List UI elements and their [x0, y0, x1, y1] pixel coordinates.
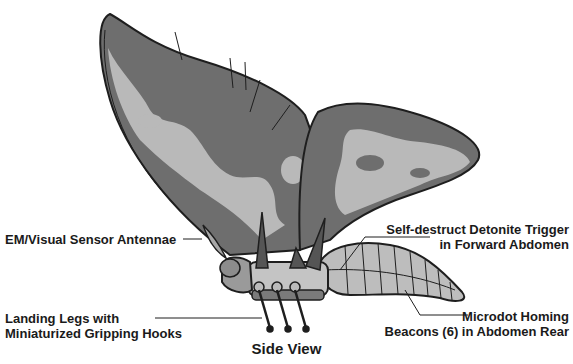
label-line: Self-destruct Detonite Trigger	[386, 222, 569, 237]
diagram-title: Side View	[0, 340, 573, 357]
label-line: Microdot Homing	[385, 309, 569, 324]
label-line: Miniaturized Gripping Hooks	[5, 326, 182, 341]
label-homing-beacons: Microdot Homing Beacons (6) in Abdomen R…	[385, 309, 569, 339]
label-line: Landing Legs with	[5, 311, 182, 326]
label-line: Beacons (6) in Abdomen Rear	[385, 324, 569, 339]
label-self-destruct: Self-destruct Detonite Trigger in Forwar…	[386, 222, 569, 252]
head	[220, 257, 252, 292]
label-line: EM/Visual Sensor Antennae	[5, 232, 176, 247]
label-landing-legs: Landing Legs with Miniaturized Gripping …	[5, 311, 182, 341]
label-line: in Forward Abdomen	[386, 237, 569, 252]
front-wing	[100, 14, 315, 255]
label-antennae: EM/Visual Sensor Antennae	[5, 232, 176, 247]
